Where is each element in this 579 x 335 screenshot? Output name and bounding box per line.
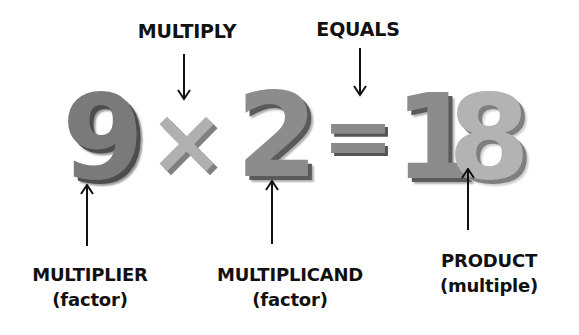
multiplier-label: MULTIPLIER (factor) xyxy=(20,262,160,312)
multiplier-label-title: MULTIPLIER xyxy=(20,262,160,287)
product-label-subtitle: (multiple) xyxy=(424,273,554,298)
multiply-operator: × xyxy=(148,96,225,188)
multiplier-label-subtitle: (factor) xyxy=(20,287,160,312)
multiplicand-label-subtitle: (factor) xyxy=(200,287,380,312)
equals-label: EQUALS xyxy=(310,18,406,40)
arrow-up-from-product-icon xyxy=(460,168,476,232)
multiplier-digit: 9 xyxy=(62,78,142,196)
multiplicand-label-title: MULTIPLICAND xyxy=(200,262,380,287)
arrow-up-from-multiplier-icon xyxy=(79,184,95,248)
multiplicand-label: MULTIPLICAND (factor) xyxy=(200,262,380,312)
multiply-label: MULTIPLY xyxy=(128,20,246,42)
arrow-up-from-multiplicand-icon xyxy=(264,180,280,246)
multiplicand-digit: 2 xyxy=(236,76,316,194)
equals-operator: = xyxy=(322,92,394,178)
product-label-title: PRODUCT xyxy=(424,248,554,273)
product-label: PRODUCT (multiple) xyxy=(424,248,554,298)
